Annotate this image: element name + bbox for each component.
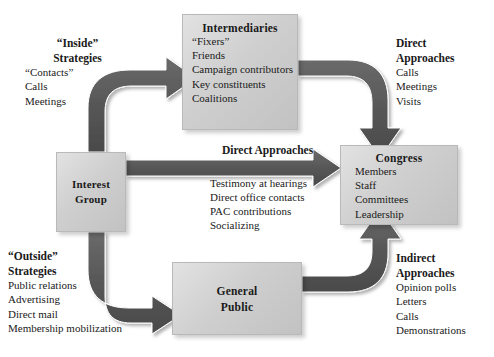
node-interest-group: Interest Group <box>56 152 126 232</box>
node-general-public: General Public <box>172 262 302 335</box>
annotation-indirect-approaches-list: Opinion polls Letters Calls Demonstratio… <box>396 280 492 337</box>
node-intermediaries: Intermediaries “Fixers” Friends Campaign… <box>182 14 298 130</box>
list-item: “Fixers” <box>192 34 297 48</box>
node-intermediaries-list: “Fixers” Friends Campaign contributors K… <box>183 34 297 105</box>
node-general-public-title: General Public <box>217 283 258 315</box>
heading-line1: Direct <box>396 37 426 49</box>
influence-diagram: Intermediaries “Fixers” Friends Campaign… <box>0 0 494 357</box>
list-item: “Contacts” <box>25 65 130 79</box>
list-item: PAC contributions <box>210 204 350 218</box>
annotation-indirect-approaches: Indirect Approaches Opinion polls Letter… <box>396 251 492 337</box>
node-interest-group-title: Interest Group <box>72 177 110 207</box>
node-congress: Congress Members Staff Committees Leader… <box>340 145 458 225</box>
list-item: Meetings <box>25 94 130 108</box>
list-item: Visits <box>396 94 492 108</box>
list-item: Membership mobilization <box>8 321 168 335</box>
list-item: Coalitions <box>192 91 297 105</box>
list-item: Leadership <box>355 207 457 221</box>
annotation-direct-approaches-right-list: Calls Meetings Visits <box>396 65 492 108</box>
annotation-outside-strategies-list: Public relations Advertising Direct mail… <box>8 278 168 335</box>
list-item: Opinion polls <box>396 280 492 294</box>
annotation-inside-strategies-list: “Contacts” Calls Meetings <box>25 65 130 108</box>
list-item: Calls <box>25 79 130 93</box>
heading-line2: Strategies <box>8 265 57 277</box>
list-item: Public relations <box>8 278 168 292</box>
heading-line1: “Outside” <box>8 250 58 262</box>
list-item: Campaign contributors <box>192 62 297 76</box>
annotation-outside-strategies-heading: “Outside” Strategies <box>8 249 168 278</box>
node-general-public-title-line1: General <box>217 285 258 297</box>
list-item: Committees <box>355 192 457 206</box>
list-item: Meetings <box>396 79 492 93</box>
list-item: Key constituents <box>192 77 297 91</box>
list-item: Staff <box>355 178 457 192</box>
list-item: Demonstrations <box>396 323 492 337</box>
heading-line2: Approaches <box>396 52 455 64</box>
heading-line2: Strategies <box>53 52 102 64</box>
node-general-public-title-line2: Public <box>221 301 254 313</box>
list-item: Members <box>355 164 457 178</box>
list-item: Letters <box>396 294 492 308</box>
heading-line1: Indirect <box>396 252 435 264</box>
annotation-direct-approaches-right-heading: Direct Approaches <box>396 36 492 65</box>
annotation-inside-strategies: “Inside” Strategies “Contacts” Calls Mee… <box>25 36 130 108</box>
list-item: Socializing <box>210 218 350 232</box>
node-congress-title: Congress <box>341 152 457 164</box>
list-item: Testimony at hearings <box>210 176 350 190</box>
list-item: Friends <box>192 48 297 62</box>
annotation-outside-strategies: “Outside” Strategies Public relations Ad… <box>8 249 168 335</box>
heading-line2: Approaches <box>396 267 455 279</box>
annotation-direct-approaches-center: Direct Approaches Testimony at hearings … <box>185 143 350 233</box>
node-intermediaries-title: Intermediaries <box>183 22 297 34</box>
annotation-direct-approaches-center-heading: Direct Approaches <box>185 143 350 158</box>
node-congress-list: Members Staff Committees Leadership <box>341 164 457 221</box>
annotation-inside-strategies-heading: “Inside” Strategies <box>25 36 130 65</box>
node-interest-group-title-line1: Interest <box>72 178 110 190</box>
annotation-direct-approaches-right: Direct Approaches Calls Meetings Visits <box>396 36 492 108</box>
list-item: Calls <box>396 309 492 323</box>
annotation-indirect-approaches-heading: Indirect Approaches <box>396 251 492 280</box>
list-item: Calls <box>396 65 492 79</box>
list-item: Direct mail <box>8 307 168 321</box>
list-item: Advertising <box>8 292 168 306</box>
list-item: Direct office contacts <box>210 190 350 204</box>
heading-line1: “Inside” <box>57 37 99 49</box>
annotation-direct-approaches-center-list: Testimony at hearings Direct office cont… <box>185 176 350 233</box>
node-interest-group-title-line2: Group <box>75 193 107 205</box>
